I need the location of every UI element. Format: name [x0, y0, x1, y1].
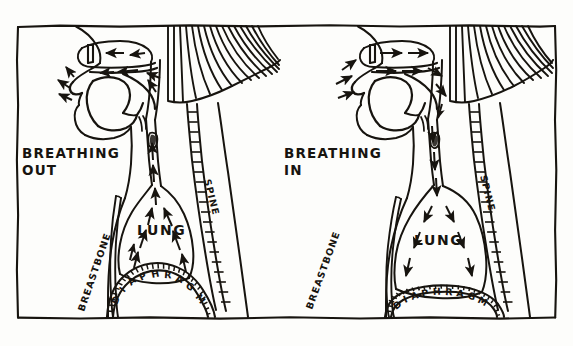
head-outline-right: [352, 27, 413, 140]
neck-muscle-hatching-left: [168, 26, 280, 103]
panel-right-breathing-in: BREATHING IN LUNG BREASTBONE SPINE D I A…: [284, 26, 553, 317]
spine-right: [469, 103, 530, 317]
neck-outline-right: [386, 127, 414, 317]
dia-ch-4: H: [433, 286, 443, 297]
panel-right-label-lung: LUNG: [414, 232, 463, 248]
neck-muscle-hatching-right: [450, 26, 553, 103]
panel-left-caption-line1: BREATHING: [22, 145, 120, 161]
panel-left-breathing-out: BREATHING OUT LUNG BREASTBONE SPINE D I …: [22, 26, 280, 317]
dia-ch-5: R: [445, 286, 454, 297]
head-outline-left: [70, 27, 131, 140]
diagram-canvas: BREATHING OUT LUNG BREASTBONE SPINE D I …: [0, 0, 573, 346]
panel-left-label-lung: LUNG: [137, 222, 186, 238]
panel-right-label-breastbone: BREASTBONE: [304, 229, 343, 310]
nasal-cavity-left: [78, 41, 157, 73]
panel-right-caption-line2: IN: [284, 162, 303, 178]
breathing-diagram-figure: BREATHING OUT LUNG BREASTBONE SPINE D I …: [0, 0, 573, 346]
panel-left-label-diaphragm: D I A P H R A G M: [109, 267, 209, 306]
dia-ch-3: P: [420, 287, 430, 299]
dia-ch-5: R: [164, 269, 173, 281]
dia-ch-7: G: [466, 289, 478, 302]
panel-left-caption-line2: OUT: [22, 162, 57, 178]
panel-left-label-spine: SPINE: [202, 178, 222, 217]
trachea-left: [139, 116, 161, 186]
dia-ch-2: A: [409, 289, 420, 302]
nasal-cavity-right: [360, 41, 439, 73]
panel-right-caption-line1: BREATHING: [284, 145, 382, 161]
dia-ch-4: H: [150, 267, 161, 280]
